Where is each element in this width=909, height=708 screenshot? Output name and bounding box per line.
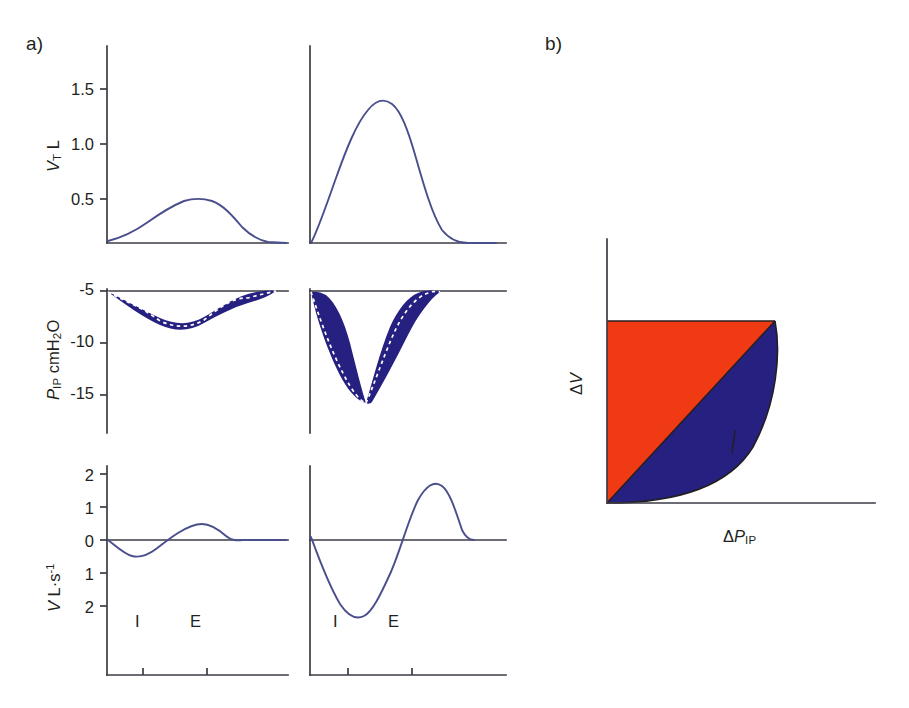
tick-label-pip-minus5: -5 <box>48 280 94 299</box>
plot-tidal-volume-forced <box>300 40 510 255</box>
tick-label-flow-0: 0 <box>48 532 94 551</box>
figure-root: a) b) VT L 1.5 1.0 0.5 PIP cmH2O -5 -10 … <box>0 0 909 708</box>
phase-mark-expiration-quiet: E <box>190 612 201 631</box>
plot-work-of-breathing <box>585 225 885 515</box>
phase-mark-expiration-forced: E <box>388 612 399 631</box>
tick-label-vt-1-0: 1.0 <box>48 135 94 154</box>
tick-label-pip-minus10: -10 <box>48 332 94 351</box>
phase-mark-inspiration-forced: I <box>333 612 338 631</box>
tick-label-flow-2-pos: 2 <box>48 466 94 485</box>
tick-label-flow-1-pos: 1 <box>48 499 94 518</box>
plot-pleural-pressure-quiet <box>90 275 290 435</box>
tick-label-flow-1-neg: 1 <box>48 565 94 584</box>
phase-mark-inspiration-quiet: I <box>135 612 140 631</box>
tick-label-vt-0-5: 0.5 <box>48 190 94 209</box>
axis-label-delta-pressure: ΔPIP <box>723 527 756 546</box>
tick-label-flow-2-neg: 2 <box>48 598 94 617</box>
plot-tidal-volume-quiet <box>90 40 290 255</box>
panel-a-label: a) <box>26 33 43 55</box>
plot-pleural-pressure-forced <box>300 275 510 435</box>
panel-b-label: b) <box>545 33 562 55</box>
tick-label-vt-1-5: 1.5 <box>48 80 94 99</box>
plot-airflow-quiet <box>90 460 290 680</box>
tick-label-pip-minus15: -15 <box>48 384 94 403</box>
axis-label-delta-volume: ΔV <box>567 373 586 395</box>
plot-airflow-forced <box>300 460 510 680</box>
